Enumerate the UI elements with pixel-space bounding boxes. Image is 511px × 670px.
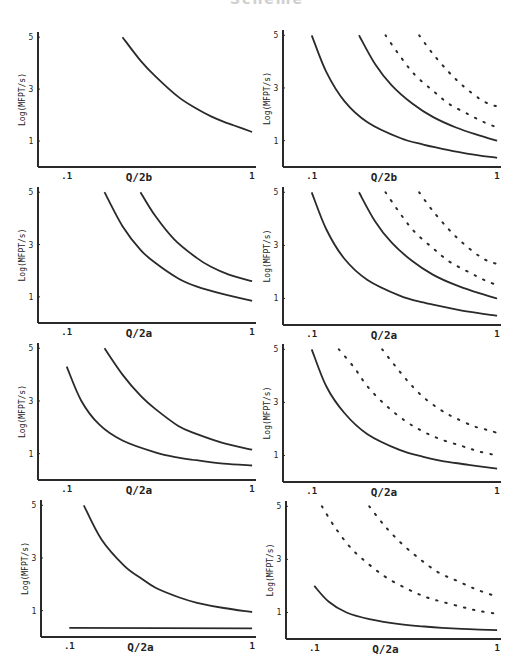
x-axis-label: Q/2a bbox=[126, 484, 153, 497]
x-tick-label: .1 bbox=[306, 486, 317, 496]
y-tick-label: 3 bbox=[29, 397, 34, 406]
series-curve-3 bbox=[382, 349, 497, 433]
x-tick-label: 1 bbox=[494, 171, 499, 181]
x-tick-label: 1 bbox=[494, 329, 499, 339]
series-curve-4 bbox=[419, 192, 497, 264]
series-curve-3 bbox=[386, 192, 498, 285]
x-axis-label: Q/2b bbox=[371, 171, 398, 184]
chart-panel-row4-left: 135.11Q/2aLog(MFPT/s) bbox=[21, 500, 256, 654]
x-axis-label: Q/2a bbox=[126, 327, 153, 340]
series-curve-2 bbox=[339, 349, 497, 455]
x-tick-label: .1 bbox=[61, 484, 72, 494]
y-tick-label: 3 bbox=[274, 398, 279, 407]
y-tick-label: 5 bbox=[29, 188, 34, 197]
series-curve-1 bbox=[314, 586, 497, 630]
x-axis-label: Q/2a bbox=[127, 641, 154, 654]
series-curve-2 bbox=[322, 506, 497, 614]
y-axis-label: Log(MFPT/s) bbox=[263, 387, 272, 440]
y-tick-label: 1 bbox=[274, 451, 279, 460]
y-tick-label: 3 bbox=[29, 241, 34, 250]
y-tick-label: 5 bbox=[32, 501, 37, 510]
series-curve-1 bbox=[123, 37, 253, 132]
y-axis-label: Log(MFPT/s) bbox=[21, 542, 30, 595]
y-axis-label: Log(MFPT/s) bbox=[18, 385, 27, 438]
x-tick-label: .1 bbox=[309, 643, 320, 653]
x-tick-label: .1 bbox=[61, 171, 72, 181]
y-tick-label: 1 bbox=[29, 293, 34, 302]
series-curve-3 bbox=[369, 506, 497, 596]
series-curve-3 bbox=[386, 35, 498, 127]
chart-panel-row2-right: 135.11Q/2aLog(MFPT/s) bbox=[263, 187, 501, 342]
y-tick-label: 3 bbox=[274, 241, 279, 250]
y-axis-label: Log(MFPT/s) bbox=[18, 229, 27, 282]
x-axis-label: Q/2b bbox=[126, 171, 153, 184]
x-tick-label: .1 bbox=[61, 327, 72, 337]
chart-panel-row3-right: 135.11Q/2aLog(MFPT/s) bbox=[263, 344, 501, 499]
y-tick-label: 1 bbox=[29, 137, 34, 146]
series-curve-2 bbox=[105, 348, 253, 449]
y-tick-label: 1 bbox=[274, 294, 279, 303]
series-curve-2 bbox=[141, 192, 253, 281]
x-tick-label: 1 bbox=[249, 641, 254, 651]
chart-panel-row1-left: 135.11Q/2bLog(MFPT/s) bbox=[18, 32, 256, 184]
x-tick-label: 1 bbox=[494, 643, 499, 653]
x-tick-label: .1 bbox=[306, 329, 317, 339]
series-baseline bbox=[69, 628, 252, 629]
x-tick-label: 1 bbox=[249, 171, 254, 181]
series-curve-4 bbox=[419, 35, 497, 106]
y-tick-label: 3 bbox=[29, 85, 34, 94]
y-tick-label: 1 bbox=[274, 137, 279, 146]
x-tick-label: 1 bbox=[249, 484, 254, 494]
series-curve-1 bbox=[67, 367, 252, 466]
x-tick-label: 1 bbox=[249, 327, 254, 337]
x-axis-label: Q/2a bbox=[371, 486, 398, 499]
series-curve-1 bbox=[312, 349, 497, 468]
chart-panel-row3-left: 135.11Q/2aLog(MFPT/s) bbox=[18, 343, 256, 497]
chart-panel-row2-left: 135.11Q/2aLog(MFPT/s) bbox=[18, 187, 256, 340]
x-tick-label: 1 bbox=[494, 486, 499, 496]
series-curve-2 bbox=[359, 35, 497, 140]
y-axis-label: Log(MFPT/s) bbox=[263, 72, 272, 125]
chart-panel-row4-right: 135.11Q/2aLog(MFPT/s) bbox=[266, 501, 501, 656]
chart-panel-row1-right: 135.11Q/2bLog(MFPT/s) bbox=[263, 30, 501, 184]
y-tick-label: 5 bbox=[274, 31, 279, 40]
y-tick-label: 3 bbox=[277, 555, 282, 564]
series-curve-1 bbox=[84, 505, 252, 612]
y-tick-label: 5 bbox=[29, 344, 34, 353]
y-axis-label: Log(MFPT/s) bbox=[18, 73, 27, 126]
y-tick-label: 3 bbox=[274, 84, 279, 93]
y-tick-label: 5 bbox=[29, 33, 34, 42]
y-tick-label: 5 bbox=[274, 188, 279, 197]
y-tick-label: 1 bbox=[277, 608, 282, 617]
y-tick-label: 5 bbox=[274, 345, 279, 354]
y-tick-label: 5 bbox=[277, 502, 282, 511]
y-tick-label: 1 bbox=[29, 450, 34, 459]
figure-grid: 135.11Q/2bLog(MFPT/s)135.11Q/2bLog(MFPT/… bbox=[0, 0, 511, 670]
series-curve-1 bbox=[105, 192, 253, 301]
x-axis-label: Q/2a bbox=[372, 643, 399, 656]
y-tick-label: 1 bbox=[32, 607, 37, 616]
y-axis-label: Log(MFPT/s) bbox=[266, 544, 275, 597]
x-tick-label: .1 bbox=[64, 641, 75, 651]
series-curve-2 bbox=[359, 192, 497, 298]
y-axis-label: Log(MFPT/s) bbox=[263, 230, 272, 283]
y-tick-label: 3 bbox=[32, 554, 37, 563]
x-tick-label: .1 bbox=[306, 171, 317, 181]
x-axis-label: Q/2a bbox=[371, 329, 398, 342]
